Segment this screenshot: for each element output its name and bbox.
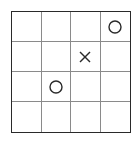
board-cell-r2-c0[interactable] (12, 72, 42, 102)
board-cell-r2-c3[interactable] (101, 72, 131, 102)
board-cell-r3-c0[interactable] (12, 102, 42, 132)
board-cell-r1-c2[interactable] (71, 42, 101, 72)
board-cell-r0-c0[interactable] (12, 12, 42, 42)
board-cell-r0-c1[interactable] (42, 12, 72, 42)
o-mark-icon (108, 20, 122, 34)
o-mark-icon (49, 80, 63, 94)
board-cell-r0-c2[interactable] (71, 12, 101, 42)
board-cell-r1-c3[interactable] (101, 42, 131, 72)
board-cell-r3-c3[interactable] (101, 102, 131, 132)
board-cell-r1-c1[interactable] (42, 42, 72, 72)
game-board (11, 11, 131, 133)
board-cell-r3-c1[interactable] (42, 102, 72, 132)
board-cell-r3-c2[interactable] (71, 102, 101, 132)
board-cell-r2-c1[interactable] (42, 72, 72, 102)
x-mark-icon (78, 50, 92, 64)
board-cell-r0-c3[interactable] (101, 12, 131, 42)
board-cell-r2-c2[interactable] (71, 72, 101, 102)
board-cell-r1-c0[interactable] (12, 42, 42, 72)
